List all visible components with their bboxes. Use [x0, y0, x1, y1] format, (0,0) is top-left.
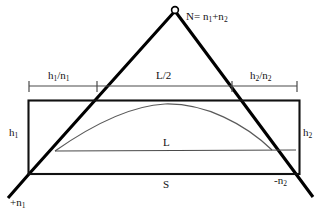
geometry-diagram: N= n1+n2 h1/n1 L/2 h2/n2 h1 h2 L S +n1	[0, 0, 317, 212]
diagram-root: N= n1+n2 h1/n1 L/2 h2/n2 h1 h2 L S +n1	[0, 0, 317, 212]
base-label: S	[163, 178, 169, 190]
diagram-background	[0, 0, 317, 212]
apex-node-marker	[172, 7, 179, 14]
center-span-label: L/2	[156, 69, 171, 81]
chord-label: L	[163, 136, 170, 148]
